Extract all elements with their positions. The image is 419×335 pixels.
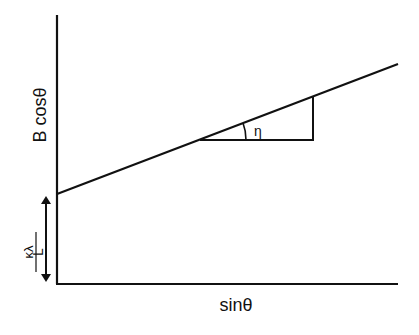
x-axis-label: sinθ <box>219 295 252 315</box>
intercept-denominator: L <box>30 248 46 256</box>
williamson-hall-diagram: η κλ L B cosθ sinθ <box>0 0 419 335</box>
y-axis-label: B cosθ <box>30 87 50 142</box>
angle-label: η <box>254 123 262 139</box>
fit-line <box>57 64 398 194</box>
angle-arc <box>243 123 246 140</box>
